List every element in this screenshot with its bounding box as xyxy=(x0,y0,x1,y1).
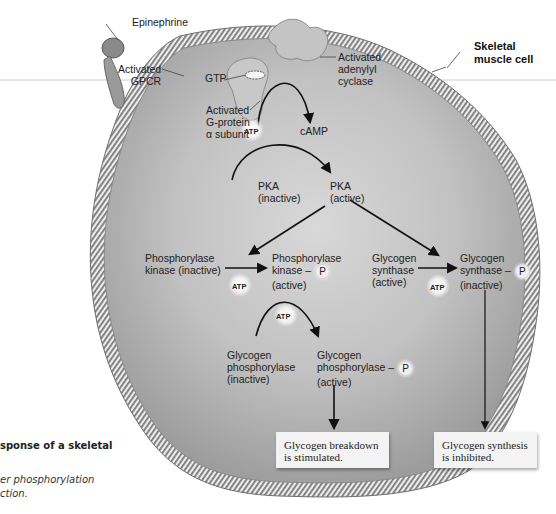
gp-inactive-label: Glycogen phosphorylase (inactive) xyxy=(227,349,295,385)
gp-active-label: Glycogen phosphorylase – P (active) xyxy=(317,349,413,388)
figure: Epinephrine Activated GPCR GTP Activated… xyxy=(0,0,556,514)
atp-label-4: ATP xyxy=(430,282,444,294)
gs-active-label: Glycogen synthase (active) xyxy=(372,252,416,288)
gs-inactive-label: Glycogen synthase – P (inactive) xyxy=(460,252,530,291)
caption-line-2: ction. xyxy=(0,488,28,499)
phk-active-label: Phosphorylase kinase – P (active) xyxy=(272,252,341,291)
pka-inactive-label: PKA (inactive) xyxy=(258,180,301,204)
phosphate-icon: P xyxy=(515,264,530,279)
atp-label-1: ATP xyxy=(244,126,258,138)
epinephrine-molecule xyxy=(102,38,124,58)
caption-title: sponse of a skeletal xyxy=(0,440,113,451)
phosphate-icon: P xyxy=(398,361,413,376)
phosphate-icon: P xyxy=(315,264,330,279)
adenylyl-cyclase-label: Activated adenylyl cyclase xyxy=(338,51,381,87)
caption-line-1: er phosphorylation xyxy=(0,474,94,485)
atp-label-2: ATP xyxy=(232,281,246,293)
camp-label: cAMP xyxy=(300,125,328,137)
breakdown-result-box: Glycogen breakdown is stimulated. xyxy=(276,432,389,468)
phk-inactive-label: Phosphorylase kinase (inactive) xyxy=(145,252,221,276)
atp-label-3: ATP xyxy=(276,311,290,323)
pka-active-label: PKA (active) xyxy=(330,180,364,204)
gtp-label: GTP xyxy=(205,72,227,84)
cell-label: Skeletal muscle cell xyxy=(474,40,533,65)
synthesis-result-box: Glycogen synthesis is inhibited. xyxy=(434,432,537,468)
gpcr-label: Activated GPCR xyxy=(118,63,161,87)
epinephrine-label: Epinephrine xyxy=(132,16,188,28)
